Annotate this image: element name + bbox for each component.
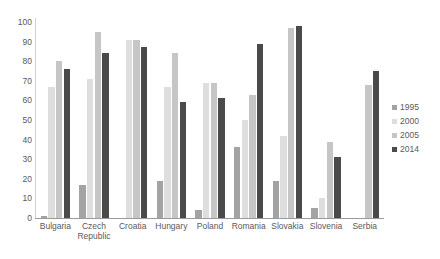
x-axis-tick-label: Romania (229, 221, 268, 241)
bar (79, 185, 86, 218)
x-axis-tick-label: Croatia (113, 221, 152, 241)
legend-swatch-icon (392, 105, 397, 110)
bar (180, 102, 187, 218)
y-axis-tick-label: 10 (6, 194, 32, 202)
bar-group (36, 14, 75, 218)
bar (319, 198, 326, 218)
bar (203, 83, 210, 218)
bar (64, 69, 71, 218)
bar (296, 26, 303, 218)
bar (257, 44, 264, 218)
bar-group (191, 14, 230, 218)
bar (172, 53, 179, 218)
bar (95, 32, 102, 218)
x-axis-tick-label: Poland (191, 221, 230, 241)
bar (126, 40, 133, 218)
y-axis-tick-label: 60 (6, 96, 32, 104)
bar-group (75, 14, 114, 218)
bar (365, 85, 372, 218)
bar (195, 210, 202, 218)
bar (249, 95, 256, 218)
bar (41, 216, 48, 218)
bar-group (345, 14, 384, 218)
legend-item[interactable]: 2014 (392, 142, 438, 156)
bar (102, 53, 109, 218)
bar (288, 28, 295, 218)
legend-swatch-icon (392, 133, 397, 138)
legend-item-label: 2014 (400, 145, 419, 154)
x-axis-tick-label: Czech Republic (75, 221, 114, 241)
x-axis-line (35, 218, 384, 219)
bar (273, 181, 280, 218)
bar (56, 61, 63, 218)
x-axis: BulgariaCzech RepublicCroatiaHungaryPola… (36, 221, 384, 241)
y-axis-tick-label: 100 (6, 18, 32, 26)
x-axis-tick-label: Slovakia (268, 221, 307, 241)
bar (280, 136, 287, 218)
bar-group (229, 14, 268, 218)
bar (242, 120, 249, 218)
bar (311, 208, 318, 218)
bar (327, 142, 334, 218)
bar-group (152, 14, 191, 218)
bar (157, 181, 164, 218)
bar (211, 83, 218, 218)
bar-group (268, 14, 307, 218)
bar (164, 87, 171, 218)
legend-swatch-icon (392, 147, 397, 152)
y-axis-tick-label: 80 (6, 57, 32, 65)
x-axis-tick-label: Slovenia (307, 221, 346, 241)
x-axis-tick-label: Serbia (345, 221, 384, 241)
legend-item[interactable]: 2000 (392, 114, 438, 128)
bar (334, 157, 341, 218)
bar (218, 98, 225, 218)
x-axis-tick-label: Bulgaria (36, 221, 75, 241)
y-axis-tick-label: 0 (6, 214, 32, 222)
bar (234, 147, 241, 218)
plot-area (36, 14, 384, 218)
legend-item[interactable]: 2005 (392, 128, 438, 142)
x-axis-tick-label: Hungary (152, 221, 191, 241)
bar-chart: 1009080706050403020100 BulgariaCzech Rep… (0, 0, 440, 259)
y-axis-tick-label: 40 (6, 136, 32, 144)
legend-item[interactable]: 1995 (392, 100, 438, 114)
y-axis-tick-label: 30 (6, 155, 32, 163)
chart-legend: 1995200020052014 (392, 100, 438, 156)
y-axis-tick-label: 90 (6, 38, 32, 46)
bar (48, 87, 55, 218)
y-axis-tick-label: 70 (6, 77, 32, 85)
legend-swatch-icon (392, 119, 397, 124)
y-axis-tick-label: 20 (6, 175, 32, 183)
bar-group (307, 14, 346, 218)
bar (373, 71, 380, 218)
legend-item-label: 2000 (400, 117, 419, 126)
y-axis-tick-label: 50 (6, 116, 32, 124)
bar (133, 40, 140, 218)
bar-group (113, 14, 152, 218)
legend-item-label: 1995 (400, 103, 419, 112)
y-axis: 1009080706050403020100 (0, 0, 32, 259)
bar (87, 79, 94, 218)
legend-item-label: 2005 (400, 131, 419, 140)
bar (141, 47, 148, 218)
